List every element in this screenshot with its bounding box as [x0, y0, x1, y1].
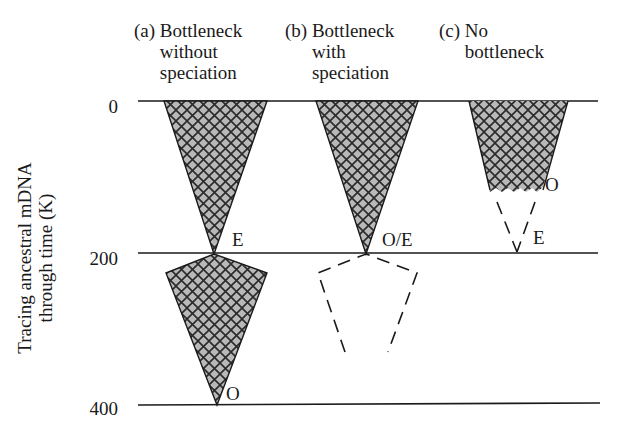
- gridline-400: [138, 403, 600, 405]
- panel-a-label-o: O: [226, 383, 240, 404]
- panel-c-dashed-left: [497, 202, 517, 252]
- panel-a-lower-cone: [166, 254, 267, 405]
- panel-b-label-oe: O/E: [382, 229, 413, 250]
- panel-c-diagram: O E: [469, 101, 568, 252]
- panel-c-label-e: E: [533, 227, 545, 248]
- panel-a-label-e: E: [232, 229, 244, 250]
- diagram-canvas: E O O/E O E: [0, 0, 626, 436]
- panel-b-diagram: O/E: [316, 101, 418, 352]
- panel-b-dashed-lineage: [318, 254, 417, 352]
- panel-c-label-o: O: [545, 174, 559, 195]
- panel-a-upper-cone: [164, 101, 267, 254]
